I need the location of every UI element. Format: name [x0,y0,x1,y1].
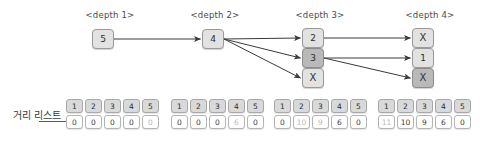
graph-node-d3n3[interactable]: X [302,68,324,88]
graph-node-d4n2[interactable]: 1 [412,48,434,68]
graph-node-d3n2[interactable]: 3 [302,48,324,68]
node-value-label: 3 [310,54,316,63]
edge-d2n1-to-d3n2 [224,39,301,58]
node-value-label: 2 [310,34,316,43]
x-mark-icon: X [310,73,317,83]
edges [114,38,411,78]
edge-d2n1-to-d3n3 [224,39,301,78]
graph-node-d4n1[interactable]: X [412,28,434,48]
diagram-canvas: <depth 1><depth 2><depth 3><depth 4> 542… [0,0,480,144]
node-value-label: 1 [420,54,426,63]
edge-d3n2-to-d4n3 [324,58,411,78]
graph-node-d2n1[interactable]: 4 [202,29,224,49]
graph-node-d1n1[interactable]: 5 [92,29,114,49]
graph-node-d4n3[interactable]: X [412,68,434,88]
edge-layer [0,0,480,144]
x-mark-icon: X [420,73,427,83]
graph-node-d3n1[interactable]: 2 [302,28,324,48]
node-value-label: 4 [210,35,216,44]
x-mark-icon: X [420,33,427,43]
node-value-label: 5 [100,35,106,44]
edge-d2n1-to-d3n1 [224,38,301,39]
